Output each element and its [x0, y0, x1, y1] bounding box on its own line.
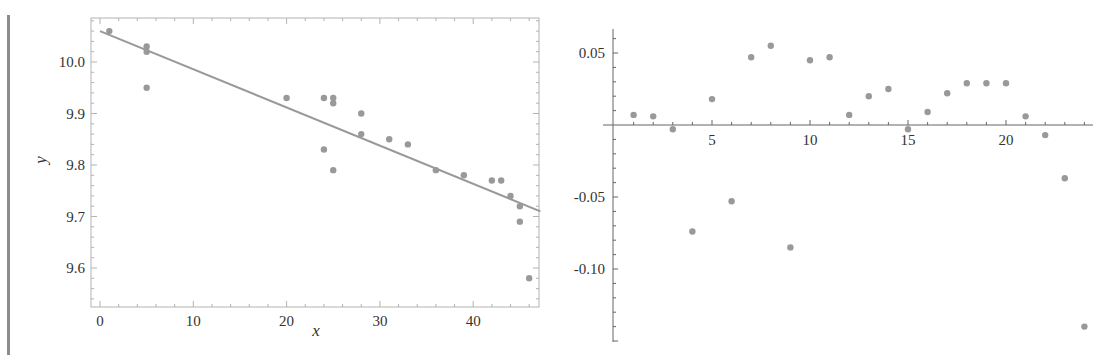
residual-point — [826, 54, 832, 60]
residual-point — [807, 57, 813, 63]
x-tick-label: 10 — [803, 132, 818, 148]
residual-point — [1003, 80, 1009, 86]
residual-point — [650, 113, 656, 119]
residual-point — [709, 96, 715, 102]
residual-point — [1081, 323, 1087, 329]
y-tick-label: -0.10 — [574, 261, 605, 277]
residual-point — [944, 90, 950, 96]
residual-point — [964, 80, 970, 86]
residual-point — [885, 86, 891, 92]
x-tick-label: 5 — [708, 132, 716, 148]
residuals-scatter-plot: 51015200.05-0.05-0.10 — [0, 0, 1116, 361]
residual-point — [983, 80, 989, 86]
x-tick-label: 15 — [901, 132, 916, 148]
x-tick-label: 20 — [999, 132, 1014, 148]
residual-point — [787, 244, 793, 250]
residual-point — [1022, 113, 1028, 119]
residual-point — [689, 228, 695, 234]
residual-point — [905, 126, 911, 132]
residual-point — [1042, 132, 1048, 138]
residual-point — [924, 109, 930, 115]
residual-point — [768, 43, 774, 49]
y-tick-label: -0.05 — [574, 189, 605, 205]
residual-point — [1062, 175, 1068, 181]
residual-point — [748, 54, 754, 60]
y-tick-label: 0.05 — [579, 45, 605, 61]
residual-point — [670, 126, 676, 132]
residual-point — [846, 112, 852, 118]
residual-point — [630, 112, 636, 118]
residual-point — [866, 93, 872, 99]
residual-point — [728, 198, 734, 204]
